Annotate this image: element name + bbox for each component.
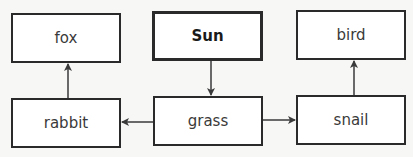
node-bird-label: bird: [336, 26, 365, 44]
node-fox: fox: [11, 13, 121, 63]
node-sun-label: Sun: [191, 27, 223, 45]
node-grass-label: grass: [188, 112, 229, 130]
node-snail: snail: [296, 95, 406, 145]
node-snail-label: snail: [334, 111, 369, 129]
node-rabbit: rabbit: [11, 98, 121, 148]
node-bird: bird: [296, 10, 406, 60]
node-sun: Sun: [152, 11, 263, 61]
node-rabbit-label: rabbit: [44, 114, 88, 132]
node-fox-label: fox: [55, 29, 78, 47]
node-grass: grass: [153, 96, 263, 146]
